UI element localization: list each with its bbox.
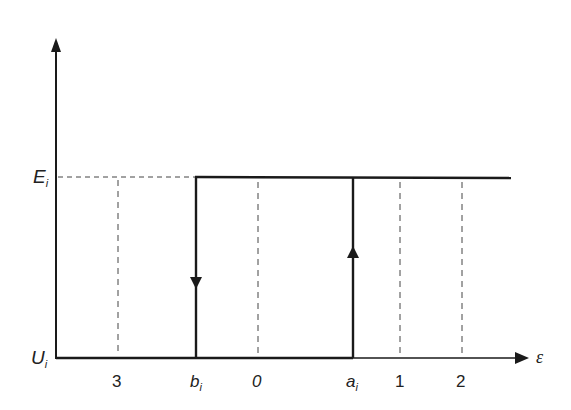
e-level-label: Ei	[33, 167, 48, 189]
tick-label-0: 0	[252, 373, 261, 390]
tick-label-a: ai	[346, 373, 358, 393]
up-arrow-icon	[347, 246, 359, 258]
diagram-canvas	[0, 0, 571, 410]
tick-label-1: 1	[395, 373, 404, 390]
tick-label-b: bi	[190, 373, 202, 393]
y-axis-arrow-icon	[51, 38, 61, 52]
u-level-label: Ui	[31, 348, 47, 370]
x-axis-arrow-icon	[515, 352, 529, 364]
x-axis-label: ε	[536, 348, 543, 366]
tick-label-3: 3	[112, 373, 121, 390]
upper-branch	[195, 177, 511, 178]
down-arrow-icon	[190, 277, 202, 289]
hysteresis-diagram: Ei Ui ε 3 bi 0 ai 1 2	[0, 0, 571, 410]
tick-label-2: 2	[456, 373, 465, 390]
